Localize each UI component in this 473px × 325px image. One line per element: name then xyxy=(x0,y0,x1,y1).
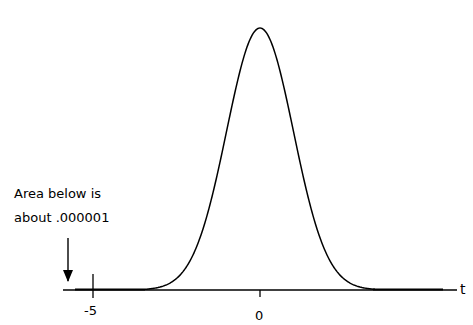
normal-curve-chart xyxy=(0,0,473,325)
annotation-line-2: about .000001 xyxy=(14,211,109,224)
x-axis-label: t xyxy=(460,282,466,296)
tick-label-0: 0 xyxy=(255,309,263,322)
annotation-line-1: Area below is xyxy=(14,187,101,200)
down-arrow-icon xyxy=(63,238,73,282)
density-curve xyxy=(145,28,375,289)
tick-label-neg5: -5 xyxy=(84,304,97,317)
